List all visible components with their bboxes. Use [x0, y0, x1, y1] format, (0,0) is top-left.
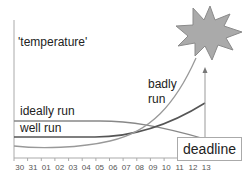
- deadline-arrowhead-icon: [203, 67, 208, 73]
- x-tick-label: 06: [106, 163, 119, 172]
- x-tick-label: 02: [53, 163, 66, 172]
- x-tick-label: 05: [93, 163, 106, 172]
- x-tick-label: 30: [13, 163, 26, 172]
- x-tick-label: 13: [200, 163, 213, 172]
- x-tick-label: 07: [120, 163, 133, 172]
- x-tick-label: 10: [160, 163, 173, 172]
- badly-run-label-line2: run: [148, 92, 177, 107]
- x-tick-label: 04: [80, 163, 93, 172]
- badly-run-label: badly run: [148, 77, 177, 107]
- x-tick-label: 12: [186, 163, 199, 172]
- y-axis-label: 'temperature': [18, 35, 87, 49]
- x-tick-label: 08: [133, 163, 146, 172]
- x-tick-label: 03: [66, 163, 79, 172]
- x-axis-tick-labels: 30 31 01 02 03 04 05 06 07 08 09 10 11 1…: [13, 163, 213, 172]
- badly-run-label-line1: badly: [148, 77, 177, 92]
- well-run-label: well run: [20, 121, 61, 135]
- deadline-label: deadline: [183, 141, 236, 157]
- x-tick-label: 11: [173, 163, 186, 172]
- ideally-run-label-text: ideally run: [20, 104, 75, 118]
- x-tick-label: 31: [26, 163, 39, 172]
- x-tick-label: 01: [40, 163, 53, 172]
- deadline-box: deadline: [177, 137, 242, 161]
- x-tick-label: 09: [146, 163, 159, 172]
- explosion-burst-icon: [176, 6, 242, 60]
